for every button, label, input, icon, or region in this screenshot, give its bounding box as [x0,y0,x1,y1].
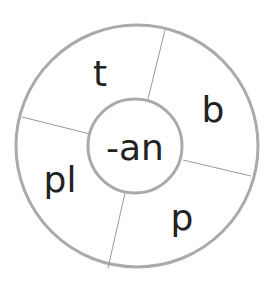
center-suffix: -an [106,127,164,168]
word-wheel: -an t b p pl [0,0,269,291]
segment-b: b [202,89,225,130]
segment-pl: pl [44,159,77,200]
segment-p: p [171,197,194,238]
segment-t: t [93,53,107,94]
